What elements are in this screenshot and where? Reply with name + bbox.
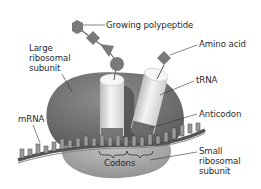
ribosome-diagram: Growing polypeptide Amino acid Large rib… xyxy=(0,0,261,189)
label-codons: Codons xyxy=(104,158,135,168)
label-trna: tRNA xyxy=(196,75,217,85)
incoming-amino-acid xyxy=(157,51,171,65)
circle-amino-acid xyxy=(110,57,124,71)
hexagon-amino-acid xyxy=(72,20,83,34)
label-mrna: mRNA xyxy=(18,114,44,124)
label-amino-acid: Amino acid xyxy=(199,39,246,49)
trna-left xyxy=(100,74,124,140)
label-growing-polypeptide: Growing polypeptide xyxy=(106,20,193,30)
label-anticodon: Anticodon xyxy=(199,109,241,119)
label-large-ribosomal-subunit: Large ribosomal subunit xyxy=(29,43,71,73)
label-small-ribosomal-subunit: Small ribosomal subunit xyxy=(199,146,241,176)
